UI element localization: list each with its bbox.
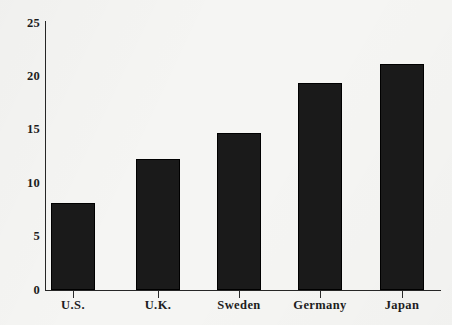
y-tick-label-0: 0 bbox=[6, 284, 40, 297]
x-tick-label-sweden: Sweden bbox=[217, 299, 260, 313]
x-tick-label-germany: Germany bbox=[293, 299, 346, 313]
x-tick-mark-japan bbox=[402, 291, 403, 298]
y-tick-label-25: 25 bbox=[6, 17, 40, 30]
y-tick-label-10: 10 bbox=[6, 177, 40, 190]
x-tick-label-uk: U.K. bbox=[145, 299, 172, 313]
y-tick-label-5: 5 bbox=[6, 230, 40, 243]
y-tick-label-20: 20 bbox=[6, 70, 40, 83]
x-tick-mark-uk bbox=[158, 291, 159, 298]
plot-area: 25 20 15 10 5 0 U.S. U.K. Sweden Germany… bbox=[0, 0, 452, 325]
bar-us bbox=[51, 203, 95, 290]
x-tick-label-japan: Japan bbox=[385, 299, 420, 313]
x-tick-label-us: U.S. bbox=[61, 299, 85, 313]
bar-uk bbox=[136, 159, 180, 291]
bar-sweden bbox=[217, 133, 261, 291]
y-axis-tick-labels: 25 20 15 10 5 0 bbox=[0, 0, 40, 325]
x-tick-mark-germany bbox=[320, 291, 321, 298]
x-tick-mark-us bbox=[73, 291, 74, 298]
y-axis-line bbox=[45, 21, 46, 291]
y-tick-label-15: 15 bbox=[6, 123, 40, 136]
bar-germany bbox=[298, 83, 342, 291]
bar-japan bbox=[380, 64, 424, 291]
x-tick-mark-sweden bbox=[239, 291, 240, 298]
bar-chart: 25 20 15 10 5 0 U.S. U.K. Sweden Germany… bbox=[0, 0, 452, 325]
